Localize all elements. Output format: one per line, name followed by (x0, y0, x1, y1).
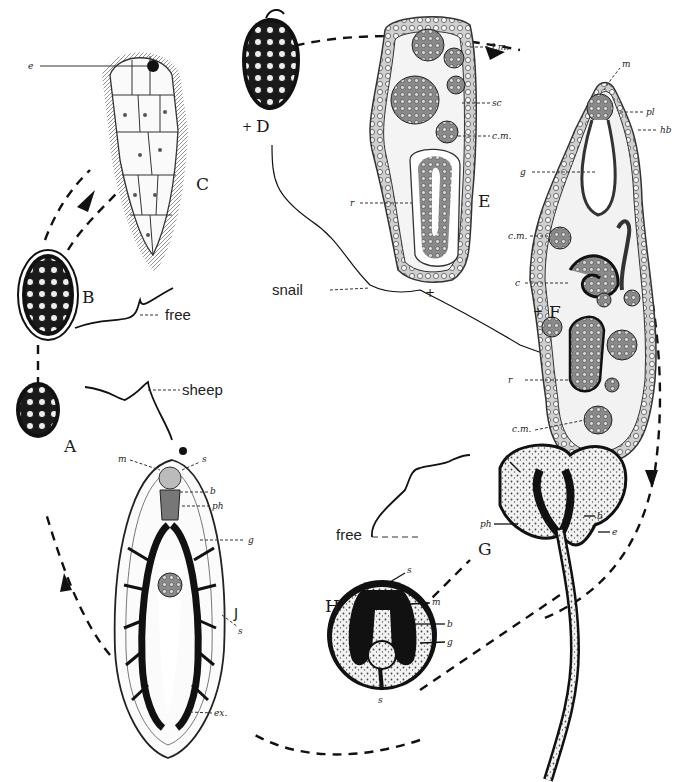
label-f-hb: hb (660, 125, 672, 135)
stage-d-sporocyst: D + (242, 10, 300, 136)
label-j-b: b (210, 486, 216, 496)
stage-f-redia: F + m pl hb g c.m. c r c.m. (508, 59, 672, 465)
arrow-icon (77, 190, 95, 212)
label-j-s2: s (238, 626, 243, 636)
stage-b-egg: B (18, 250, 95, 340)
label-g-e: e (612, 527, 617, 537)
label-f-pl: pl (646, 107, 655, 117)
label-g: G (478, 539, 492, 559)
label-h-s2: s (378, 695, 383, 705)
stage-g-cercaria: G s ph b e (478, 445, 626, 780)
stage-a-egg: A (16, 382, 77, 456)
label-a: A (63, 436, 77, 456)
host-sheep: sheep (182, 381, 223, 398)
label-e-lm: l.m. (492, 42, 509, 52)
stage-e-redia: E + l.m. sc c.m. r (350, 17, 511, 300)
label-f-cm: c.m. (508, 231, 527, 241)
label-c-e: e (28, 61, 33, 71)
label-e-cm: c.m. (492, 131, 511, 141)
label-f-cm2: c.m. (512, 424, 531, 434)
label-j-ex: ex. (214, 708, 227, 718)
label-j-m: m (118, 454, 127, 464)
label-j: J (233, 605, 238, 621)
label-g-b: b (597, 511, 603, 521)
arrow-icon (645, 470, 658, 488)
svg-text:+: + (242, 120, 252, 134)
svg-text:+: + (425, 286, 435, 300)
label-f-r: r (508, 375, 513, 385)
label-b: B (82, 287, 95, 307)
host-snail: snail (272, 281, 303, 298)
host-free-top: free (165, 306, 191, 323)
label-h-g: g (447, 637, 453, 647)
label-g-ph: ph (480, 519, 492, 529)
label-e: E (478, 191, 490, 211)
label-d: D (256, 116, 270, 136)
label-e-sc: sc (492, 98, 502, 108)
brace-free-bottom (372, 455, 470, 537)
stage-j-adult-fluke: J m s b ph g s ex. (115, 454, 254, 758)
life-cycle-diagram: A B free e C D + snail (0, 0, 685, 782)
label-c: C (196, 174, 209, 194)
label-f-c: c (515, 278, 520, 288)
label-f-m: m (622, 59, 631, 69)
label-f: F (549, 302, 561, 322)
stage-h-metacercaria: H s m b g s (325, 565, 453, 705)
label-h-s: s (407, 565, 412, 575)
stage-c-miracidium: e C (28, 53, 209, 273)
label-j-ph: ph (212, 501, 224, 511)
label-j-s: s (202, 454, 207, 464)
label-f-g: g (520, 167, 526, 177)
label-h-m: m (432, 597, 441, 607)
label-h-b: b (447, 619, 453, 629)
label-j-g: g (248, 535, 254, 545)
host-free-bottom: free (336, 526, 362, 543)
brace-sheep (85, 382, 172, 440)
label-g-s: s (505, 452, 510, 462)
label-h: H (325, 596, 340, 616)
label-e-r: r (350, 198, 355, 208)
svg-text:+: + (533, 305, 543, 319)
